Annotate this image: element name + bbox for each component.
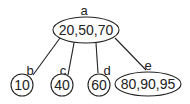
edge-a-d: [96, 43, 98, 73]
edges: [33, 38, 146, 75]
node-b: b 10: [11, 63, 34, 96]
edge-a-c: [68, 43, 74, 75]
node-label: e: [144, 58, 151, 73]
node-keys: 20,50,70: [59, 22, 114, 38]
edge-a-e: [115, 38, 146, 70]
node-keys: 80,90,95: [121, 76, 176, 92]
edge-a-b: [33, 38, 60, 75]
node-a: a 20,50,70: [53, 3, 119, 43]
node-keys: 40: [54, 77, 70, 93]
node-label: a: [80, 3, 88, 18]
node-keys: 10: [14, 77, 30, 93]
node-e: e 80,90,95: [115, 58, 181, 96]
node-keys: 60: [91, 77, 107, 93]
node-d: d 60: [88, 63, 111, 96]
tree-diagram: a 20,50,70 b 10 c 40 d 60 e 80,90,95: [0, 0, 190, 104]
